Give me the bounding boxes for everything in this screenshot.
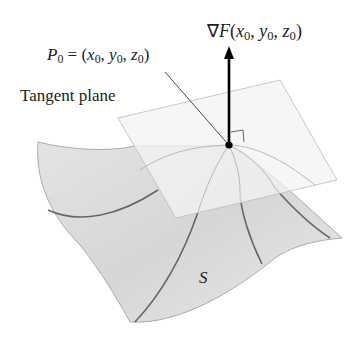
gradient-label: ∇F(x0, y0, z0) [207, 20, 302, 42]
surface-label: S [199, 268, 208, 288]
tangent-plane-label: Tangent plane [20, 86, 116, 106]
point-p0 [225, 141, 232, 148]
arrow-head-icon [224, 46, 234, 59]
point-label: P0 = (x0, y0, z0) [47, 45, 149, 65]
diagram: ∇F(x0, y0, z0) P0 = (x0, y0, z0) Tangent… [0, 0, 364, 348]
